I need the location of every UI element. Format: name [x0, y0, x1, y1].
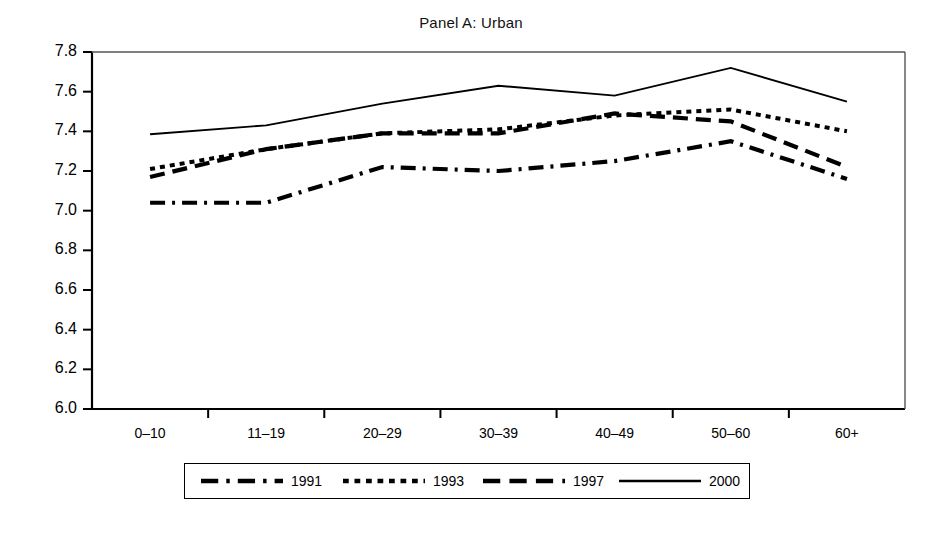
x-tick-label-1: 11–19 [216, 425, 316, 441]
x-tick-label-3: 30–39 [449, 425, 549, 441]
legend-swatch-dash-dot [199, 474, 285, 488]
data-series [150, 68, 847, 203]
plot-svg [0, 40, 942, 430]
x-tick-label-2: 20–29 [332, 425, 432, 441]
plot-area: 6.06.26.46.66.87.07.27.47.67.8 0–1011–19… [0, 40, 942, 430]
y-tick-label-2: 6.4 [31, 320, 77, 338]
y-tick-label-7: 7.4 [31, 121, 77, 139]
x-tick-label-4: 40–49 [565, 425, 665, 441]
legend-item-1993[interactable]: 1993 [341, 464, 464, 498]
legend-swatch-solid [617, 474, 703, 488]
x-tick-label-6: 60+ [797, 425, 897, 441]
axes [92, 52, 905, 409]
series-line-1993 [150, 110, 847, 170]
legend-label-1993: 1993 [433, 473, 464, 489]
y-tick-label-4: 6.8 [31, 240, 77, 258]
chart-figure: Panel A: Urban 6.06.26.46.66.87.07.27.47… [0, 0, 942, 534]
legend-item-1997[interactable]: 1997 [481, 464, 604, 498]
legend-item-1991[interactable]: 1991 [199, 464, 322, 498]
legend-label-2000: 2000 [709, 473, 740, 489]
y-tick-label-3: 6.6 [31, 280, 77, 298]
legend-swatch-dotted [341, 474, 427, 488]
y-tick-label-8: 7.6 [31, 82, 77, 100]
y-tick-label-0: 6.0 [31, 399, 77, 417]
legend-item-2000[interactable]: 2000 [617, 464, 740, 498]
series-line-1991 [150, 141, 847, 202]
chart-legend: 1991199319972000 [184, 463, 750, 499]
legend-swatch-dashed [481, 474, 567, 488]
legend-label-1991: 1991 [291, 473, 322, 489]
x-tick-label-5: 50–60 [681, 425, 781, 441]
y-tick-label-1: 6.2 [31, 359, 77, 377]
y-tick-label-9: 7.8 [31, 42, 77, 60]
x-axis-ticks [208, 409, 789, 418]
y-axis-ticks [83, 52, 92, 409]
x-tick-label-0: 0–10 [100, 425, 200, 441]
y-tick-label-6: 7.2 [31, 161, 77, 179]
legend-label-1997: 1997 [573, 473, 604, 489]
chart-title: Panel A: Urban [0, 14, 942, 31]
y-tick-label-5: 7.0 [31, 201, 77, 219]
